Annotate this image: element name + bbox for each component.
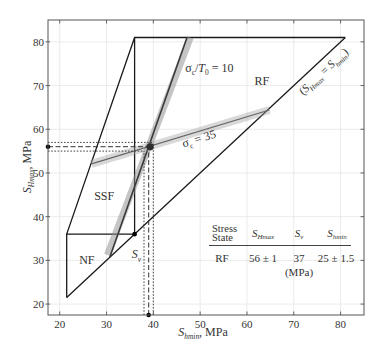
table-cell-state: RF [215,253,228,264]
table-header-shmax-subscript: Hmax [257,233,274,241]
sv-point [132,232,137,237]
table-header-sv-subscript: v [300,233,303,241]
y-tick-label: 70 [33,80,45,92]
table-header-rule [209,245,351,246]
x-tick-label: 40 [148,318,160,330]
x-axis-label: Shmin, MPa [178,325,228,341]
y-tick-label: 20 [33,298,45,310]
sv-point-label: Sv [132,247,142,263]
y-tick-label: 40 [33,211,45,223]
x-tick-label: 80 [335,318,347,330]
axis-labels: Shmin, MPaSHmax, MPa [20,140,228,341]
table-header-sv: Sv [295,228,304,243]
sigma-c-35-label: σc = 35 [180,127,218,153]
table-cell-sv: 37 [294,253,305,264]
y-tick-label: 30 [33,254,45,266]
rf-region-label: RF [255,74,270,88]
table-header-shmin: Shmin [327,228,347,243]
y-tick-label: 80 [33,36,45,48]
table-header-shmax: SHmax [252,228,274,243]
nf-region-label: NF [79,253,95,267]
x-tick-label: 30 [101,318,113,330]
stress-estimate-point [146,143,153,150]
sigma-c-t0-label: σc/T0 = 10 [185,61,233,77]
x-tick-label: 60 [241,318,253,330]
stress-polygon-chart: 2030405060708020304050607080 σc/T0 = 10R… [0,0,383,355]
ssf-region-label: SSF [94,189,114,203]
table-header-state: State [212,234,233,243]
x-tick-label: 70 [288,318,300,330]
table-unit: (MPa) [285,267,313,278]
equality-line-label: (SHmax = Shmin) [296,45,352,99]
table-cell-shmax: 56 ± 1 [249,253,277,264]
table-header-shmin-subscript: hmin [333,233,347,241]
y-tick-label: 60 [33,123,45,135]
table-cell-shmin: 25 ± 1.5 [318,253,354,264]
y-axis-label: SHmax, MPa [20,140,36,193]
x-tick-label: 20 [54,318,66,330]
